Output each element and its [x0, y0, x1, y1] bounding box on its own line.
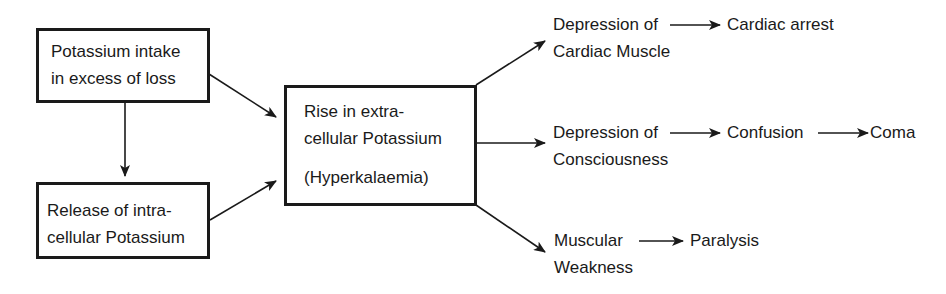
label-line: Potassium intake	[51, 38, 180, 65]
node-depression-consciousness: Depression of Consciousness	[553, 119, 668, 173]
node-release-intracellular-label: Release of intra- cellular Potassium	[47, 197, 185, 251]
node-muscular-weakness: Muscular Weakness	[554, 227, 633, 281]
label-line: Weakness	[554, 254, 633, 281]
label-line: Consciousness	[553, 146, 668, 173]
arrow-rise-to-cardiac	[476, 41, 545, 85]
label-line: (Hyperkalaemia)	[304, 164, 442, 191]
label-line: Depression of	[553, 119, 668, 146]
node-paralysis: Paralysis	[690, 227, 759, 254]
arrow-intake-to-rise	[209, 74, 276, 117]
node-coma: Coma	[870, 119, 915, 146]
label-line: Cardiac Muscle	[553, 38, 670, 65]
node-cardiac-arrest: Cardiac arrest	[727, 11, 834, 38]
node-depression-cardiac: Depression of Cardiac Muscle	[553, 11, 670, 65]
arrow-rise-to-muscular	[476, 205, 545, 252]
label-line: cellular Potassium	[304, 125, 442, 152]
node-potassium-intake-label: Potassium intake in excess of loss	[51, 38, 180, 92]
label-line: Rise in extra-	[304, 98, 442, 125]
label-line: Release of intra-	[47, 197, 185, 224]
arrow-release-to-rise	[210, 181, 276, 220]
label-line: cellular Potassium	[47, 224, 185, 251]
node-confusion: Confusion	[727, 119, 804, 146]
label-line: Muscular	[554, 227, 633, 254]
node-hyperkalaemia-label: Rise in extra- cellular Potassium (Hyper…	[304, 98, 442, 191]
label-line: in excess of loss	[51, 65, 180, 92]
label-line: Depression of	[553, 11, 670, 38]
